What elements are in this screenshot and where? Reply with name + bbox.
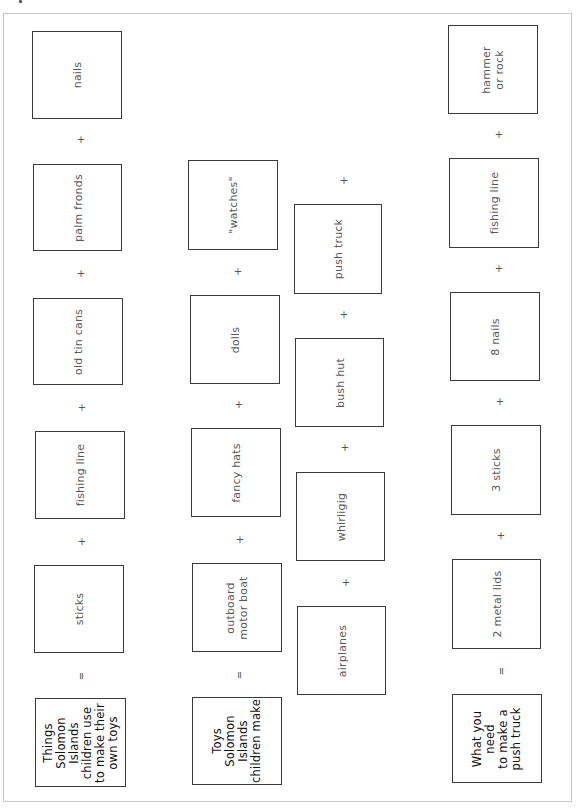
item-box-3-sticks: 3 sticks: [451, 425, 541, 515]
item-box-fishing-line-2: fishing line: [449, 158, 539, 248]
item-box-2-metal-lids: 2 metal lids: [452, 559, 541, 649]
plus-sign: +: [337, 308, 351, 322]
label-box-push-truck-needs: What you need to make a push truck: [452, 694, 542, 783]
item-text: fishing line: [74, 432, 87, 518]
item-text: palm fronds: [71, 165, 84, 251]
plus-sign: +: [492, 128, 506, 142]
item-box-palm-fronds: palm fronds: [33, 164, 122, 251]
item-text: 3 sticks: [490, 427, 503, 513]
plus-sign: +: [339, 576, 353, 590]
plus-sign: +: [233, 533, 247, 547]
item-box-whirligig: whirligig: [296, 472, 385, 561]
label-text: Toys Solomon Islands children make: [211, 698, 263, 784]
item-text: fancy hats: [230, 430, 243, 516]
item-text: 2 metal lids: [490, 561, 503, 647]
item-box-nails: nails: [32, 31, 122, 119]
plus-sign: +: [74, 267, 88, 281]
item-text: sticks: [73, 566, 86, 652]
item-text: 8 nails: [489, 294, 502, 380]
equals-sign: =: [495, 664, 509, 678]
plus-sign: +: [494, 529, 508, 543]
item-text: whirligig: [334, 474, 347, 560]
label-text: Things Solomon Islands children use to m…: [42, 700, 120, 786]
plus-sign: +: [492, 262, 506, 276]
equals-sign: =: [75, 669, 89, 683]
item-box-airplanes: airplanes: [297, 606, 386, 695]
item-text: airplanes: [335, 608, 348, 694]
item-box-push-truck: push truck: [294, 204, 382, 294]
item-box-bush-hut: bush hut: [295, 338, 384, 427]
plus-sign: +: [74, 133, 88, 147]
label-box-toys-made: Toys Solomon Islands children make: [192, 697, 282, 785]
item-text: bush hut: [333, 340, 346, 426]
item-box-outboard-motor-boat: outboard motor boat: [192, 563, 282, 652]
item-box-dolls: dolls: [190, 295, 280, 384]
item-box-fishing-line: fishing line: [35, 431, 125, 519]
item-box-8-nails: 8 nails: [450, 292, 540, 381]
item-text: hammer or rock: [480, 27, 506, 113]
item-box-hammer-or-rock: hammer or rock: [448, 25, 538, 114]
item-text: push truck: [332, 206, 345, 292]
item-box-fancy-hats: fancy hats: [191, 428, 281, 517]
label-box-things-used: Things Solomon Islands children use to m…: [35, 698, 126, 787]
item-text: "watches": [227, 162, 240, 248]
item-box-watches: "watches": [188, 160, 278, 250]
plus-sign: +: [232, 398, 246, 412]
item-text: fishing line: [488, 160, 501, 246]
item-text: nails: [71, 32, 84, 118]
plus-sign: +: [75, 535, 89, 549]
plus-sign: +: [493, 395, 507, 409]
item-box-old-tin-cans: old tin cans: [33, 298, 123, 385]
item-text: old tin cans: [72, 299, 85, 385]
plus-sign: +: [231, 265, 245, 279]
item-box-sticks: sticks: [34, 565, 124, 653]
plus-sign: +: [338, 441, 352, 455]
stray-mark: [19, 0, 22, 3]
item-text: dolls: [229, 297, 242, 383]
equals-sign: =: [233, 668, 247, 682]
label-text: What you need to make a push truck: [471, 696, 523, 782]
item-text: outboard motor boat: [224, 565, 250, 651]
plus-sign: +: [337, 174, 351, 188]
plus-sign: +: [75, 401, 89, 415]
